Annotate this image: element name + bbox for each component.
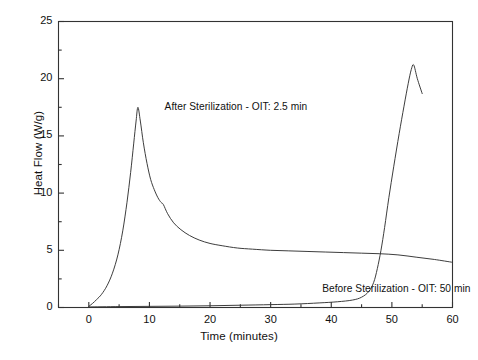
y-tick-label: 0	[25, 300, 53, 312]
y-tick-label: 15	[25, 128, 53, 140]
y-axis-title: Heat Flow (W/g)	[32, 111, 44, 196]
y-tick-label: 25	[25, 14, 53, 26]
annotation-before-sterilization: Before Sterilization - OIT: 50 min	[322, 283, 470, 294]
x-tick-label: 40	[316, 313, 346, 325]
x-axis-title: Time (minutes)	[0, 330, 478, 342]
plot-frame	[59, 22, 453, 308]
x-tick-label: 0	[74, 313, 104, 325]
x-tick-label: 60	[438, 313, 468, 325]
series-line-after-sterilization	[89, 107, 453, 306]
axis-ticks	[59, 22, 453, 308]
y-tick-label: 5	[25, 243, 53, 255]
annotation-after-sterilization: After Sterilization - OIT: 2.5 min	[165, 101, 308, 112]
x-tick-label: 50	[377, 313, 407, 325]
x-tick-label: 30	[256, 313, 286, 325]
y-tick-label: 10	[25, 186, 53, 198]
plot-area	[0, 0, 478, 360]
y-tick-label: 20	[25, 71, 53, 83]
chart-container: Time (minutes) Heat Flow (W/g) 010203040…	[0, 0, 478, 360]
x-tick-label: 20	[195, 313, 225, 325]
x-tick-label: 10	[134, 313, 164, 325]
